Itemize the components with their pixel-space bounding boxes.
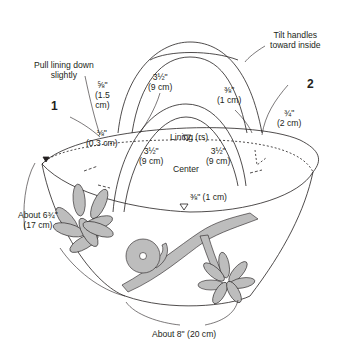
left-handle-offset-label: ⅝" (1.5 cm) [95, 80, 110, 110]
front-left-width-label: 3½" (9 cm) [139, 146, 163, 166]
center-marker-front-icon [180, 204, 188, 210]
floral-motif [52, 184, 258, 306]
back-handle-width-label: 3½" (9 cm) [148, 72, 172, 92]
front-right-width-label: 3½" (9 cm) [206, 146, 230, 166]
left-seam-label: ⅛" (0.3 cm) [86, 128, 118, 148]
lining-label: Lining (rs) [170, 132, 208, 142]
step-marker-1: 1 [51, 99, 58, 113]
bag-illustration [0, 0, 345, 363]
pull-lining-annotation: Pull lining down slightly [34, 60, 94, 80]
height-label: About 6¾" (17 cm) [18, 210, 58, 230]
front-offset-label: ⅜" (1 cm) [190, 192, 227, 202]
center-label: Center [173, 164, 199, 174]
flower-left [52, 184, 116, 257]
bottom-width-label: About 8" (20 cm) [152, 329, 216, 339]
step-marker-2: 2 [307, 77, 314, 91]
back-right-offset-label: ⅜" (1 cm) [217, 85, 241, 105]
corner-marker-icon [43, 157, 49, 162]
right-offset-label: ¾" (2 cm) [277, 108, 301, 128]
tilt-handles-annotation: Tilt handles toward inside [270, 30, 321, 50]
